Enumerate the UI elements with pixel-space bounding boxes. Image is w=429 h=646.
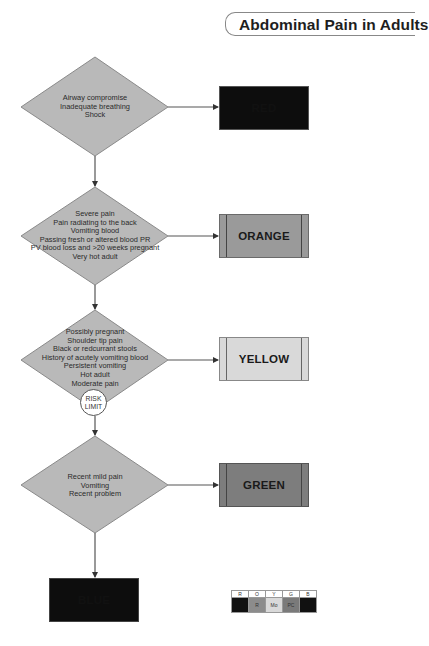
diamond-1-text: Airway compromise Inadequate breathing S… (45, 94, 145, 120)
outcome-label-yellow: YELLOW (239, 353, 289, 365)
criterion: Very hot adult (25, 253, 165, 262)
diamond-4-text: Recent mild pain Vomiting Recent problem (45, 473, 145, 499)
diamond-2-text: Severe pain Pain radiating to the back V… (25, 210, 165, 262)
priority-legend: R O Y G B R Mo PC (231, 590, 317, 613)
box-border-left (226, 215, 227, 257)
legend-header-cell: G (283, 591, 300, 598)
outcome-label-red: RED (252, 102, 277, 114)
criterion: Moderate pain (35, 380, 155, 389)
risk-limit-badge: RISK LIMIT (80, 389, 107, 416)
criterion: Recent problem (45, 490, 145, 499)
outcome-box-red: RED (219, 86, 309, 130)
legend-value-cell (232, 598, 249, 613)
legend-value-cell: PC (283, 598, 300, 613)
legend-value-row: R Mo PC (232, 598, 317, 613)
criterion: Shock (45, 111, 145, 120)
legend-value-cell (300, 598, 317, 613)
risk-limit-line-1: RISK (86, 395, 102, 403)
outcome-box-blue: BLUE (49, 578, 139, 622)
legend-header-cell: B (300, 591, 317, 598)
legend-header-cell: Y (266, 591, 283, 598)
outcome-label-blue: BLUE (78, 594, 110, 606)
outcome-box-orange: ORANGE (219, 214, 309, 258)
outcome-box-green: GREEN (219, 463, 309, 507)
legend-header-row: R O Y G B (232, 591, 317, 598)
outcome-label-orange: ORANGE (238, 230, 290, 242)
box-border-right (301, 215, 302, 257)
box-border-left (226, 464, 227, 506)
outcome-box-yellow: YELLOW (219, 337, 309, 381)
diamond-3-text: Possibly pregnant Shoulder tip pain Blac… (35, 328, 155, 388)
box-border-left (226, 338, 227, 380)
legend-value-cell: R (249, 598, 266, 613)
legend-header-cell: O (249, 591, 266, 598)
outcome-label-green: GREEN (243, 479, 285, 491)
box-border-right (301, 338, 302, 380)
box-border-right (301, 464, 302, 506)
legend-header-cell: R (232, 591, 249, 598)
legend-value-cell: Mo (266, 598, 283, 613)
risk-limit-line-2: LIMIT (85, 403, 102, 411)
